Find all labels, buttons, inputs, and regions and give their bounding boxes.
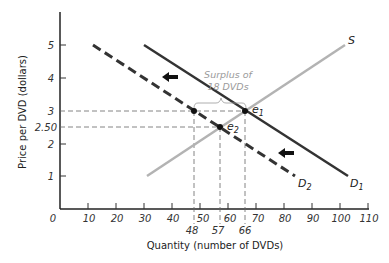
shift-arrow-upper-icon [162, 72, 178, 82]
e2-label: e2 [227, 120, 239, 135]
point-d2-at-3 [191, 108, 197, 114]
x-tick-100: 100 [331, 213, 350, 224]
d2-label: D2 [298, 177, 312, 192]
x-tick-66: 66 [239, 225, 252, 236]
x-tick-110: 110 [359, 213, 378, 224]
x-tick-60: 60 [224, 213, 237, 224]
x-axis-title: Quantity (number of DVDs) [147, 240, 284, 251]
point-e2 [217, 124, 223, 130]
shift-arrow-lower-icon [278, 148, 294, 158]
y-tick-2: 2 [48, 139, 54, 150]
x-tick-80: 80 [279, 213, 292, 224]
d1-label: D1 [350, 177, 364, 192]
x-ticks [88, 203, 368, 209]
x-tick-50: 50 [197, 213, 210, 224]
surplus-label-line2: 18 DVDs [207, 81, 248, 92]
point-e1 [242, 108, 248, 114]
x-tick-20: 20 [111, 213, 124, 224]
x-tick-57: 57 [212, 225, 225, 236]
e1-label: e1 [252, 103, 264, 118]
x-tick-48: 48 [186, 225, 199, 236]
y-tick-5: 5 [48, 40, 54, 51]
x-tick-90: 90 [307, 213, 320, 224]
y-tick-1: 1 [48, 171, 54, 182]
x-tick-40: 40 [167, 213, 180, 224]
supply-demand-chart: Surplus of 18 DVDs e1 e2 S D1 D2 5 4 3 2… [0, 0, 389, 263]
x-tick-10: 10 [83, 213, 96, 224]
supply-label: S [348, 34, 355, 47]
surplus-label-line1: Surplus of [204, 69, 253, 80]
y-tick-250: 2.50 [35, 122, 57, 133]
y-tick-3: 3 [48, 106, 54, 117]
y-ticks [60, 45, 66, 176]
y-tick-4: 4 [48, 73, 54, 84]
x-tick-30: 30 [139, 213, 152, 224]
y-axis-title: Price per DVD (dollars) [17, 55, 28, 169]
x-tick-70: 70 [252, 213, 265, 224]
x-tick-0: 0 [50, 213, 56, 224]
